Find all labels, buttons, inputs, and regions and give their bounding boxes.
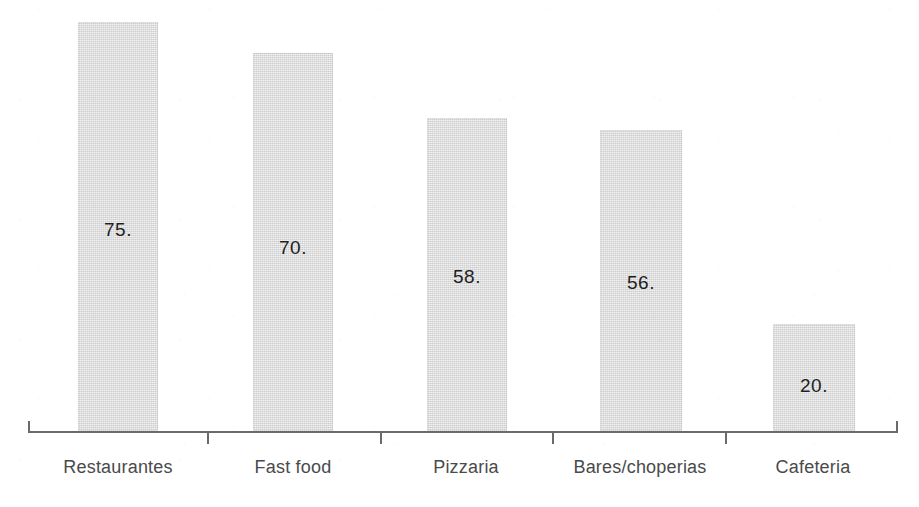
axis-tick-2: [380, 433, 382, 444]
x-label-fast-food: Fast food: [193, 457, 393, 478]
axis-right-endcap: [896, 421, 898, 433]
axis-baseline: [28, 431, 898, 433]
axis-tick-4: [725, 433, 727, 444]
axis-tick-3: [552, 433, 554, 444]
bar-value-pizzaria: 58.: [427, 266, 507, 288]
bar-value-bares-choperias: 56.: [600, 272, 682, 294]
bar-value-restaurantes: 75.: [78, 219, 158, 241]
axis-tick-1: [207, 433, 209, 444]
x-label-cafeteria: Cafeteria: [713, 457, 913, 478]
axis-left-endcap: [28, 421, 30, 433]
bar-chart: 75. 70. 58. 56. 20. Restaurantes Fast fo…: [0, 0, 919, 507]
bar-value-cafeteria: 20.: [773, 375, 855, 397]
x-label-restaurantes: Restaurantes: [18, 457, 218, 478]
bar-value-fast-food: 70.: [253, 237, 333, 259]
